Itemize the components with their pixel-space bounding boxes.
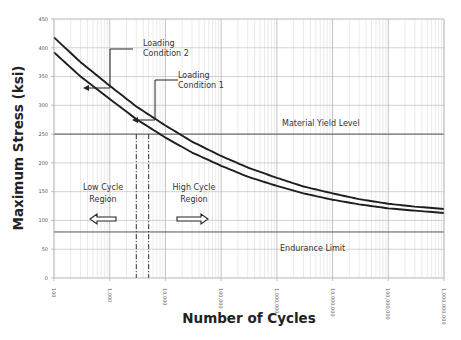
- lc2-label-line1: Loading: [143, 39, 175, 48]
- x-tick-label: 100: [51, 288, 57, 298]
- lc2-label-line2: Condition 2: [143, 49, 189, 58]
- lc1-label-line2: Condition 1: [178, 81, 224, 90]
- y-tick-label: 450: [38, 16, 48, 22]
- minor-gridlines: [71, 19, 442, 278]
- loading-condition-2-callout: Loading Condition 2: [83, 39, 189, 91]
- right-arrow-icon: [177, 214, 208, 224]
- yield-level-label: Material Yield Level: [282, 119, 360, 128]
- sn-fatigue-chart: 050100150200250300350400450 1001,00010,0…: [0, 0, 461, 340]
- lc1-label-line1: Loading: [178, 71, 210, 80]
- high-cycle-line2: Region: [180, 195, 207, 204]
- high-cycle-line1: High Cycle: [173, 183, 216, 192]
- y-tick-label: 200: [38, 160, 48, 166]
- y-tick-label: 100: [38, 217, 48, 223]
- vertical-markers: [136, 134, 148, 278]
- y-tick-label: 0: [45, 275, 48, 281]
- low-cycle-region: Low Cycle Region: [83, 183, 123, 224]
- y-axis-title: Maximum Stress (ksi): [10, 65, 26, 230]
- low-cycle-line2: Region: [89, 195, 116, 204]
- y-tick-label: 250: [38, 131, 48, 137]
- y-tick-label: 300: [38, 102, 48, 108]
- y-tick-label: 400: [38, 45, 48, 51]
- y-tick-label: 150: [38, 188, 48, 194]
- arrowhead-icon: [83, 85, 89, 91]
- left-arrow-icon: [90, 214, 116, 224]
- leader-line: [135, 80, 178, 120]
- x-tick-label: 10,000,000: [330, 288, 336, 317]
- x-tick-label: 100,000,000: [385, 288, 391, 320]
- y-axis-ticks: 050100150200250300350400450: [38, 16, 54, 281]
- x-tick-label: 1,000,000,000: [441, 288, 447, 325]
- x-axis-title: Number of Cycles: [182, 310, 316, 326]
- endurance-limit-label: Endurance Limit: [280, 244, 345, 253]
- y-tick-label: 350: [38, 73, 48, 79]
- loading-condition-1-callout: Loading Condition 1: [132, 71, 224, 123]
- y-tick-label: 50: [42, 246, 48, 252]
- x-tick-label: 10,000: [162, 288, 168, 306]
- x-tick-label: 1,000: [107, 288, 113, 302]
- high-cycle-region: High Cycle Region: [173, 183, 216, 224]
- x-tick-label: 100,000: [218, 288, 224, 309]
- low-cycle-line1: Low Cycle: [83, 183, 123, 192]
